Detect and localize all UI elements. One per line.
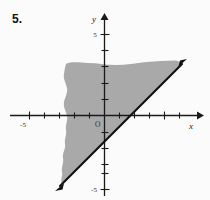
x-tick-label-neg5: -5 bbox=[20, 121, 26, 129]
line-arrowhead-upper-right bbox=[179, 59, 188, 67]
y-axis-label: y bbox=[91, 14, 96, 24]
coordinate-graph: x y O -5 5 -5 bbox=[0, 0, 210, 200]
origin-label: O bbox=[95, 120, 101, 129]
y-axis-arrowhead bbox=[101, 13, 109, 20]
x-axis-label: x bbox=[188, 121, 193, 131]
x-axis-arrowhead bbox=[197, 112, 204, 120]
y-tick-label-neg5: -5 bbox=[91, 186, 97, 194]
figure-container: 5. bbox=[0, 0, 210, 200]
line-arrowhead-lower-left bbox=[55, 184, 64, 192]
y-tick-label-5: 5 bbox=[93, 31, 97, 39]
